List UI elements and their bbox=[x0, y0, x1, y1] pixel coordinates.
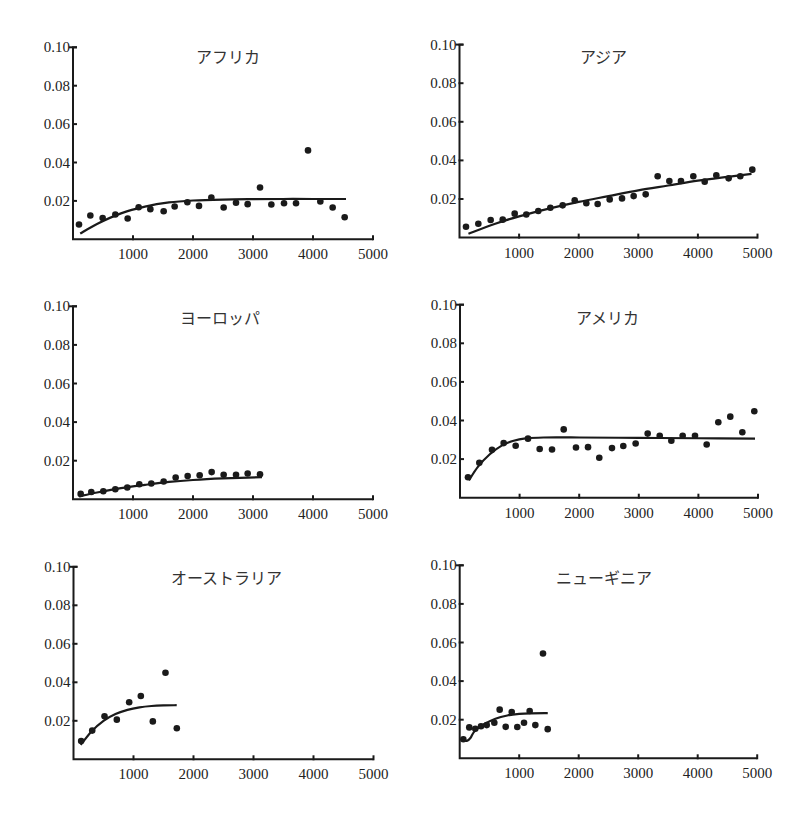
fit-curve bbox=[469, 437, 755, 480]
data-point bbox=[739, 429, 746, 436]
data-point bbox=[184, 199, 191, 206]
y-tick-label: 0.06 bbox=[430, 635, 457, 651]
data-point bbox=[594, 201, 601, 208]
data-point bbox=[100, 488, 107, 495]
y-tick-label: 0.04 bbox=[430, 673, 457, 689]
data-point bbox=[174, 725, 181, 732]
x-tick-label: 3000 bbox=[238, 506, 268, 522]
data-point bbox=[148, 480, 155, 487]
data-point bbox=[160, 478, 167, 485]
data-point bbox=[725, 175, 732, 182]
data-point bbox=[220, 204, 227, 211]
y-tick-label: 0.06 bbox=[44, 376, 71, 392]
y-tick-label: 0.02 bbox=[44, 193, 70, 209]
data-point bbox=[544, 726, 551, 733]
x-tick-label: 2000 bbox=[178, 506, 208, 522]
data-point bbox=[341, 214, 348, 221]
data-point bbox=[526, 708, 533, 715]
data-point bbox=[619, 195, 626, 202]
data-point bbox=[126, 699, 133, 706]
x-tick-label: 4000 bbox=[683, 765, 713, 781]
data-point bbox=[233, 471, 240, 478]
data-point bbox=[257, 184, 264, 191]
data-point bbox=[571, 197, 578, 204]
data-point bbox=[656, 432, 663, 439]
data-point bbox=[511, 210, 518, 217]
y-tick-label: 0.02 bbox=[430, 712, 456, 728]
y-tick-label: 0.02 bbox=[431, 451, 457, 467]
x-tick-label: 4000 bbox=[298, 246, 328, 262]
data-point bbox=[654, 173, 661, 180]
data-point bbox=[536, 446, 543, 453]
x-tick-label: 5000 bbox=[358, 506, 388, 522]
data-point bbox=[521, 719, 528, 726]
data-point bbox=[701, 178, 708, 185]
data-point bbox=[463, 223, 470, 230]
y-tick-label: 0.04 bbox=[431, 413, 458, 429]
data-point bbox=[147, 206, 154, 213]
data-point bbox=[293, 200, 300, 207]
data-point bbox=[87, 212, 94, 219]
data-point bbox=[476, 459, 483, 466]
data-point bbox=[208, 194, 215, 201]
panel-america: アメリカ 0.020.040.060.080.10100020003000400… bbox=[431, 297, 773, 521]
x-tick-label: 2000 bbox=[564, 505, 594, 521]
data-point bbox=[483, 722, 490, 729]
y-tick-label: 0.10 bbox=[44, 39, 70, 55]
x-tick-label: 3000 bbox=[238, 246, 268, 262]
data-point bbox=[549, 446, 556, 453]
data-point bbox=[560, 426, 567, 433]
data-point bbox=[508, 709, 515, 716]
data-point bbox=[500, 440, 507, 447]
data-point bbox=[162, 669, 169, 676]
fit-curve bbox=[468, 174, 751, 234]
y-tick-label: 0.08 bbox=[430, 596, 456, 612]
x-tick-label: 5000 bbox=[742, 765, 772, 781]
y-tick-label: 0.06 bbox=[44, 636, 71, 652]
x-tick-label: 3000 bbox=[624, 505, 654, 521]
panel-africa: アフリカ 0.020.040.060.080.10100020003000400… bbox=[44, 39, 388, 262]
data-point bbox=[523, 211, 530, 218]
data-point bbox=[233, 200, 240, 207]
data-point bbox=[460, 736, 467, 743]
data-point bbox=[77, 491, 84, 498]
data-point bbox=[727, 413, 734, 420]
data-point bbox=[268, 201, 275, 208]
chart-figure: アフリカ 0.020.040.060.080.10100020003000400… bbox=[0, 0, 809, 817]
y-tick-label: 0.06 bbox=[44, 116, 71, 132]
data-point bbox=[749, 166, 756, 173]
y-tick-label: 0.10 bbox=[430, 37, 456, 53]
fit-curve bbox=[80, 199, 346, 234]
y-tick-label: 0.10 bbox=[430, 557, 456, 573]
panel-title: アジア bbox=[580, 48, 627, 67]
data-point bbox=[220, 471, 227, 478]
data-point bbox=[138, 693, 145, 700]
data-point bbox=[112, 486, 119, 493]
data-point bbox=[606, 196, 613, 203]
x-tick-label: 1000 bbox=[505, 505, 535, 521]
panel-europe: ヨーロッパ 0.020.040.060.080.1010002000300040… bbox=[44, 298, 388, 522]
data-point bbox=[112, 211, 119, 218]
data-point bbox=[124, 484, 131, 491]
y-tick-label: 0.02 bbox=[430, 191, 456, 207]
panel-title: アメリカ bbox=[576, 309, 639, 328]
data-point bbox=[465, 474, 472, 481]
x-tick-label: 2000 bbox=[564, 765, 594, 781]
data-point bbox=[466, 724, 473, 731]
data-point bbox=[573, 444, 580, 451]
data-point bbox=[184, 473, 191, 480]
x-tick-label: 5000 bbox=[358, 246, 388, 262]
data-point bbox=[281, 200, 288, 207]
y-tick-label: 0.04 bbox=[44, 674, 71, 690]
fit-curve bbox=[79, 477, 262, 496]
data-point bbox=[208, 469, 215, 476]
y-tick-label: 0.02 bbox=[44, 453, 70, 469]
x-tick-label: 3000 bbox=[623, 765, 653, 781]
data-point bbox=[89, 727, 96, 734]
data-point bbox=[499, 216, 506, 223]
data-point bbox=[489, 447, 496, 454]
data-point bbox=[559, 202, 566, 209]
data-point bbox=[678, 178, 685, 185]
y-tick-label: 0.04 bbox=[430, 152, 457, 168]
data-point bbox=[475, 220, 482, 227]
